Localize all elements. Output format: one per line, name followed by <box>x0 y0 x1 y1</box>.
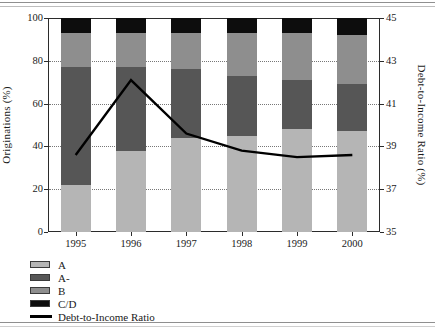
legend-color-swatch-icon <box>30 287 50 294</box>
chart-figure: 020406080100 353739414345 19951996199719… <box>0 0 435 333</box>
top-rule-secondary <box>0 6 435 7</box>
legend-line-swatch-icon <box>30 315 52 318</box>
right-axis-tick <box>380 146 384 147</box>
right-axis-title: Debt-to-Income Ratio (%) <box>416 65 428 186</box>
x-axis-tick <box>131 232 132 236</box>
x-axis-tick-label: 2000 <box>322 238 382 249</box>
right-axis-tick <box>380 61 384 62</box>
x-axis-tick <box>76 232 77 236</box>
left-axis-tick-label: 40 <box>33 141 44 152</box>
right-axis-tick <box>380 189 384 190</box>
chart-legend: AA-BC/DDebt-to-Income Ratio <box>30 258 155 323</box>
legend-item-label: Debt-to-Income Ratio <box>58 311 155 323</box>
left-axis-title: Originations (%) <box>0 86 12 163</box>
bottom-rule-secondary <box>0 326 435 327</box>
legend-item[interactable]: A <box>30 258 155 271</box>
bottom-rule-primary <box>0 322 435 323</box>
line-path <box>76 80 353 157</box>
legend-item-label: B <box>58 285 65 297</box>
x-axis-tick-label: 1995 <box>46 238 106 249</box>
right-axis-tick-label: 43 <box>386 56 397 67</box>
x-axis-tick <box>297 232 298 236</box>
right-axis-tick-label: 39 <box>386 141 397 152</box>
legend-color-swatch-icon <box>30 261 50 268</box>
plot-area: 020406080100 353739414345 19951996199719… <box>48 18 380 232</box>
top-rule-primary <box>0 2 435 3</box>
x-axis-tick <box>352 232 353 236</box>
x-axis-tick-label: 1997 <box>156 238 216 249</box>
right-axis-tick-label: 41 <box>386 99 397 110</box>
right-axis-tick-label: 45 <box>386 13 397 24</box>
x-axis-tick <box>186 232 187 236</box>
left-axis-tick <box>44 232 48 233</box>
debt-to-income-line-series <box>48 18 380 232</box>
legend-color-swatch-icon <box>30 300 50 307</box>
x-axis-tick <box>242 232 243 236</box>
right-axis-tick <box>380 18 384 19</box>
left-axis-tick-label: 100 <box>27 13 43 24</box>
legend-item[interactable]: A- <box>30 271 155 284</box>
right-axis-tick-label: 37 <box>386 184 397 195</box>
legend-item[interactable]: B <box>30 284 155 297</box>
legend-item-label: A <box>58 259 66 271</box>
left-axis-tick-label: 60 <box>33 99 44 110</box>
legend-item-label: A- <box>58 272 70 284</box>
x-axis-tick-label: 1999 <box>267 238 327 249</box>
left-axis-tick-label: 0 <box>38 227 43 238</box>
right-axis-tick-label: 35 <box>386 227 397 238</box>
legend-item[interactable]: C/D <box>30 297 155 310</box>
legend-item-label: C/D <box>58 298 76 310</box>
legend-color-swatch-icon <box>30 274 50 281</box>
x-axis-tick-label: 1998 <box>212 238 272 249</box>
x-axis-tick-label: 1996 <box>101 238 161 249</box>
left-axis-tick-label: 20 <box>33 184 44 195</box>
right-axis-tick <box>380 104 384 105</box>
right-axis-tick <box>380 232 384 233</box>
left-axis-tick-label: 80 <box>33 56 44 67</box>
